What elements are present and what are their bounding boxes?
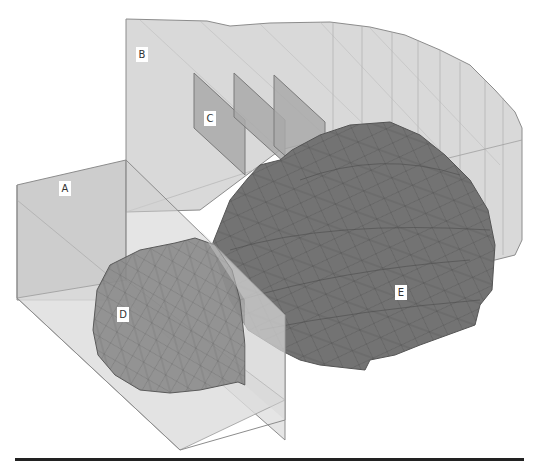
label-b: B [136,47,148,62]
label-c: C [204,111,216,126]
label-d: D [117,307,129,322]
label-e: E [395,285,407,300]
baseline-rule [15,458,524,461]
3d-scene-diagram [0,0,539,467]
label-a: A [59,181,71,196]
